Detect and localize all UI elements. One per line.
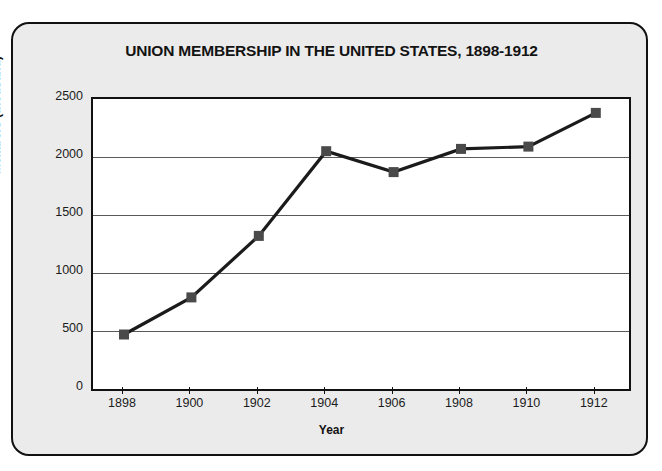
y-tick-label: 1500 [23,205,83,219]
x-tick-label: 1906 [362,396,422,410]
chart-card: UNION MEMBERSHIP IN THE UNITED STATES, 1… [11,22,648,456]
x-tick-label: 1908 [429,396,489,410]
y-tick-label: 2000 [23,147,83,161]
chart-title: UNION MEMBERSHIP IN THE UNITED STATES, 1… [13,42,650,60]
x-tick-mark [526,387,527,394]
x-axis-title: Year [13,423,650,437]
x-tick-label: 1912 [564,396,624,410]
data-point-marker [321,146,331,156]
x-tick-mark [459,387,460,394]
y-tick-label: 1000 [23,263,83,277]
x-tick-mark [122,387,123,394]
data-point-marker [591,108,601,118]
data-point-marker [456,144,466,154]
x-tick-label: 1900 [159,396,219,410]
x-tick-mark [594,387,595,394]
x-tick-label: 1910 [496,396,556,410]
x-tick-mark [257,387,258,394]
y-axis-title: Members (thousand) [0,56,3,174]
x-tick-mark [189,387,190,394]
data-point-marker [389,167,399,177]
data-point-marker [254,231,264,241]
x-tick-mark [392,387,393,394]
plot-area [91,97,631,391]
x-tick-label: 1904 [294,396,354,410]
y-tick-label: 0 [23,379,83,393]
data-series-line [93,99,629,389]
y-tick-label: 2500 [23,89,83,103]
y-tick-label: 500 [23,321,83,335]
data-point-marker [523,142,533,152]
x-tick-label: 1902 [227,396,287,410]
x-tick-mark [324,387,325,394]
data-point-marker [186,292,196,302]
data-point-marker [119,330,129,340]
x-tick-label: 1898 [92,396,152,410]
